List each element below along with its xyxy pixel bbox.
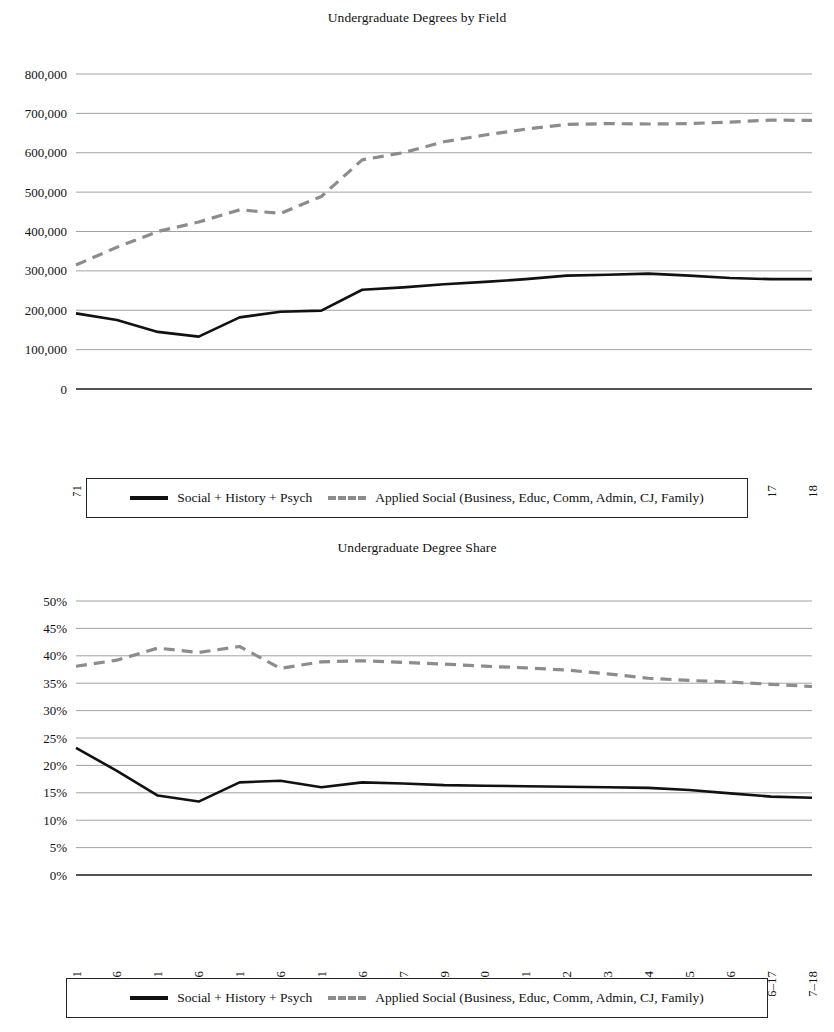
legend-dashed-label: Applied Social (Business, Educ, Comm, Ad…	[375, 990, 704, 1006]
legend-dashed-line-icon	[328, 996, 366, 1000]
chart-2-plot: 0%5%10%15%20%25%30%35%40%45%50%1970–7119…	[0, 556, 834, 996]
legend-item-dashed: Applied Social (Business, Educ, Comm, Ad…	[328, 490, 704, 506]
y-tick-label: 0	[61, 382, 68, 397]
series-line-dashed	[76, 646, 812, 686]
y-tick-label: 40%	[43, 648, 67, 663]
legend-item-solid: Social + History + Psych	[130, 490, 312, 506]
legend-item-dashed: Applied Social (Business, Educ, Comm, Ad…	[328, 990, 704, 1006]
legend-solid-label: Social + History + Psych	[177, 990, 312, 1006]
y-tick-label: 700,000	[25, 106, 67, 121]
x-tick-label: 2017–18	[805, 971, 820, 996]
y-tick-label: 100,000	[25, 342, 67, 357]
y-tick-label: 45%	[43, 621, 67, 636]
series-line-solid	[76, 274, 812, 337]
chart-undergraduate-degrees-by-field: Undergraduate Degrees by Field 0100,0002…	[0, 0, 834, 530]
y-tick-label: 20%	[43, 758, 67, 773]
y-tick-label: 25%	[43, 731, 67, 746]
series-line-solid	[76, 748, 812, 802]
y-tick-label: 800,000	[25, 67, 67, 82]
legend-dashed-label: Applied Social (Business, Educ, Comm, Ad…	[375, 490, 704, 506]
x-tick-label: 2017–18	[805, 485, 820, 496]
x-tick-label: 2016–17	[764, 485, 779, 497]
figure-page: Undergraduate Degrees by Field 0100,0002…	[0, 0, 834, 1032]
x-tick-label: 1970–71	[69, 485, 84, 496]
y-tick-label: 50%	[43, 594, 67, 609]
y-tick-label: 400,000	[25, 224, 67, 239]
legend-dashed-line-icon	[328, 496, 366, 500]
y-tick-label: 30%	[43, 703, 67, 718]
y-tick-label: 15%	[43, 785, 67, 800]
y-tick-label: 200,000	[25, 303, 67, 318]
chart-2-legend: Social + History + Psych Applied Social …	[66, 978, 768, 1018]
y-tick-label: 300,000	[25, 263, 67, 278]
legend-item-solid: Social + History + Psych	[130, 990, 312, 1006]
y-tick-label: 35%	[43, 676, 67, 691]
chart-1-legend: Social + History + Psych Applied Social …	[86, 478, 748, 518]
legend-solid-line-icon	[130, 996, 168, 1000]
legend-solid-label: Social + History + Psych	[177, 490, 312, 506]
y-tick-label: 600,000	[25, 145, 67, 160]
chart-1-title: Undergraduate Degrees by Field	[0, 0, 834, 26]
chart-1-plot: 0100,000200,000300,000400,000500,000600,…	[0, 26, 834, 496]
chart-2-title: Undergraduate Degree Share	[0, 530, 834, 556]
legend-solid-line-icon	[130, 496, 168, 500]
y-tick-label: 10%	[43, 813, 67, 828]
y-tick-label: 5%	[50, 840, 68, 855]
chart-undergraduate-degree-share: Undergraduate Degree Share 0%5%10%15%20%…	[0, 530, 834, 1032]
y-tick-label: 500,000	[25, 185, 67, 200]
y-tick-label: 0%	[50, 868, 68, 883]
